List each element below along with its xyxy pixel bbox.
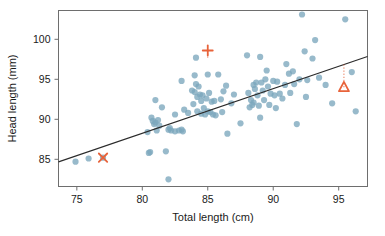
data-point [215,71,221,77]
data-point [271,92,277,98]
data-point [163,148,169,154]
data-point [223,83,229,89]
data-point [220,88,226,94]
data-point [349,69,355,75]
x-axis-title: Total length (cm) [172,211,253,223]
data-point [190,101,196,107]
data-point [257,115,263,121]
data-point [231,91,237,97]
data-point [316,75,322,81]
data-point [219,109,225,115]
data-point [86,155,92,161]
data-point [262,76,268,82]
data-point [192,72,198,78]
data-point [218,96,224,102]
data-point [266,102,272,108]
y-tick-label: 85 [39,153,51,165]
y-tick-label: 90 [39,113,51,125]
data-point [287,90,293,96]
data-point [294,121,300,127]
data-point [342,16,348,22]
data-point [256,103,262,109]
data-point [312,37,318,43]
x-tick-label: 75 [71,193,83,205]
y-tick-label: 95 [39,73,51,85]
data-point [185,110,191,116]
data-point [211,98,217,104]
x-tick-label: 85 [202,193,214,205]
data-point [257,54,263,60]
chart-dynamic-layer: 7580859095859095100Total length (cm)Head… [6,11,368,223]
data-point [303,94,309,100]
data-point [252,86,258,92]
data-point [237,120,243,126]
data-point [205,71,211,77]
x-tick-label: 80 [136,193,148,205]
x-tick-label: 90 [267,193,279,205]
data-point [172,111,178,117]
data-point [224,131,230,137]
y-axis-title: Head length (mm) [6,54,18,142]
data-point [178,78,184,84]
y-tick-label: 100 [33,33,51,45]
data-point [213,112,219,118]
data-point [203,95,209,101]
data-point [245,90,251,96]
data-point [299,11,305,17]
data-point [72,159,78,165]
data-point [273,105,279,111]
data-point [206,90,212,96]
data-point [274,79,280,85]
data-point [309,55,315,61]
data-point [264,67,270,73]
data-point [329,100,335,106]
data-point [302,48,308,54]
data-point [155,117,161,123]
data-point [147,149,153,155]
data-point [290,68,296,74]
data-point [250,99,256,105]
data-point [244,52,250,58]
data-point [353,108,359,114]
data-point [159,104,165,110]
data-point [152,97,158,103]
data-point [261,97,267,103]
data-point [265,83,271,89]
data-points-group [72,11,358,182]
data-point [196,83,202,89]
scatter-plot-figure: 7580859095859095100Total length (cm)Head… [0,0,385,236]
data-point [323,82,329,88]
data-point [165,176,171,182]
x-tick-label: 95 [333,193,345,205]
data-point [283,61,289,67]
regression-line [59,57,368,162]
data-point [180,128,186,134]
data-point [279,95,285,101]
chart-canvas: 7580859095859095100Total length (cm)Head… [0,0,385,236]
data-point [193,55,199,61]
